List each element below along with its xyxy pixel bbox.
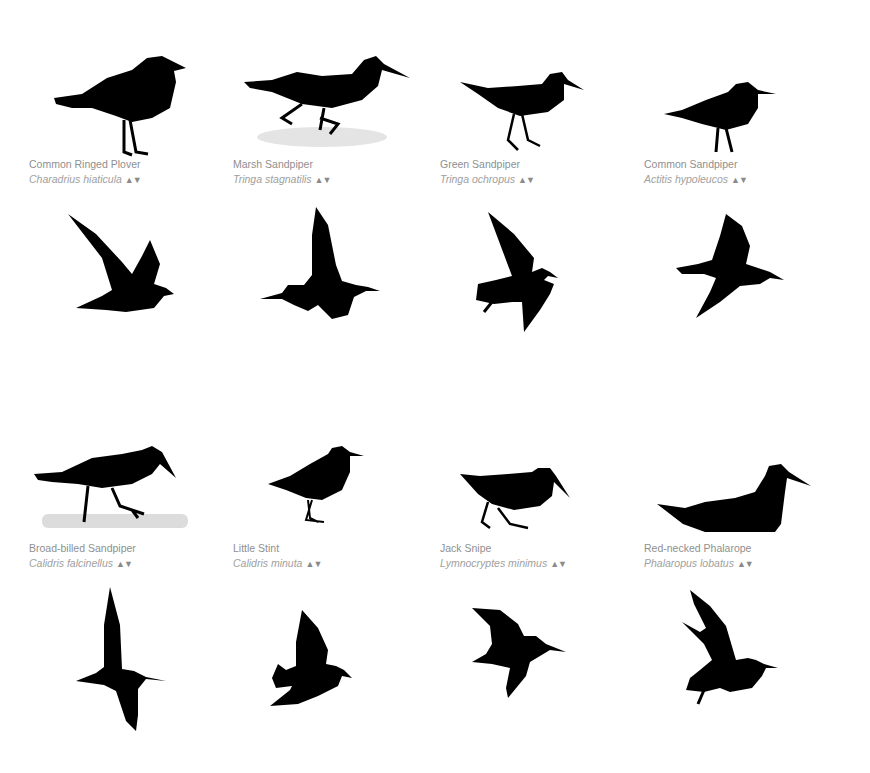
- scientific-name: Tringa stagnatilis▲▼: [233, 172, 330, 188]
- common-name: Jack Snipe: [440, 541, 566, 556]
- standing-silhouette-red-necked-phalarope: [655, 462, 815, 534]
- sort-down-icon[interactable]: ▼: [745, 559, 753, 569]
- flight-silhouette-red-necked-phalarope: [680, 588, 785, 706]
- sort-arrows: ▲▼: [731, 175, 747, 185]
- standing-silhouette-broad-billed-sandpiper: [32, 444, 192, 536]
- flight-silhouette-little-stint: [268, 608, 353, 710]
- sort-up-icon[interactable]: ▲: [518, 175, 526, 185]
- flight-silhouette-marsh-sandpiper: [258, 205, 383, 325]
- species-caption: Marsh Sandpiper Tringa stagnatilis▲▼: [233, 157, 330, 188]
- standing-silhouette-green-sandpiper: [458, 68, 588, 158]
- sort-down-icon[interactable]: ▼: [124, 559, 132, 569]
- species-caption: Common Ringed Plover Charadrius hiaticul…: [29, 157, 141, 188]
- species-caption: Red-necked Phalarope Phalaropus lobatus▲…: [644, 541, 753, 572]
- common-name: Common Sandpiper: [644, 157, 747, 172]
- sort-arrows: ▲▼: [125, 175, 141, 185]
- standing-silhouette-common-sandpiper: [662, 80, 782, 154]
- scientific-name: Tringa ochropus▲▼: [440, 172, 534, 188]
- sort-arrows: ▲▼: [550, 559, 566, 569]
- common-name: Red-necked Phalarope: [644, 541, 753, 556]
- common-name: Green Sandpiper: [440, 157, 534, 172]
- sort-up-icon[interactable]: ▲: [550, 559, 558, 569]
- common-name: Little Stint: [233, 541, 321, 556]
- sort-up-icon[interactable]: ▲: [125, 175, 133, 185]
- sort-down-icon[interactable]: ▼: [313, 559, 321, 569]
- standing-silhouette-marsh-sandpiper: [242, 52, 412, 152]
- scientific-name: Actitis hypoleucos▲▼: [644, 172, 747, 188]
- scientific-name: Calidris minuta▲▼: [233, 556, 321, 572]
- sort-down-icon[interactable]: ▼: [133, 175, 141, 185]
- species-caption: Common Sandpiper Actitis hypoleucos▲▼: [644, 157, 747, 188]
- common-name: Common Ringed Plover: [29, 157, 141, 172]
- flight-silhouette-jack-snipe: [470, 606, 570, 702]
- scientific-name: Calidris falcinellus▲▼: [29, 556, 136, 572]
- sort-arrows: ▲▼: [305, 559, 321, 569]
- sort-up-icon[interactable]: ▲: [737, 559, 745, 569]
- flight-silhouette-broad-billed-sandpiper: [74, 585, 174, 733]
- sort-arrows: ▲▼: [116, 559, 132, 569]
- standing-silhouette-jack-snipe: [458, 466, 573, 534]
- flight-silhouette-common-sandpiper: [674, 212, 789, 322]
- flight-silhouette-common-ringed-plover: [66, 212, 181, 317]
- sort-up-icon[interactable]: ▲: [116, 559, 124, 569]
- flight-silhouette-green-sandpiper: [474, 210, 564, 338]
- sort-down-icon[interactable]: ▼: [323, 175, 331, 185]
- scientific-name: Charadrius hiaticula▲▼: [29, 172, 141, 188]
- sort-down-icon[interactable]: ▼: [558, 559, 566, 569]
- standing-silhouette-common-ringed-plover: [52, 52, 192, 160]
- sort-arrows: ▲▼: [518, 175, 534, 185]
- common-name: Broad-billed Sandpiper: [29, 541, 136, 556]
- species-caption: Little Stint Calidris minuta▲▼: [233, 541, 321, 572]
- sort-arrows: ▲▼: [737, 559, 753, 569]
- scientific-name: Phalaropus lobatus▲▼: [644, 556, 753, 572]
- species-caption: Jack Snipe Lymnocryptes minimus▲▼: [440, 541, 566, 572]
- common-name: Marsh Sandpiper: [233, 157, 330, 172]
- species-caption: Green Sandpiper Tringa ochropus▲▼: [440, 157, 534, 188]
- sort-up-icon[interactable]: ▲: [315, 175, 323, 185]
- sort-up-icon[interactable]: ▲: [731, 175, 739, 185]
- standing-silhouette-little-stint: [266, 444, 366, 528]
- sort-down-icon[interactable]: ▼: [526, 175, 534, 185]
- scientific-name: Lymnocryptes minimus▲▼: [440, 556, 566, 572]
- sort-arrows: ▲▼: [315, 175, 331, 185]
- species-caption: Broad-billed Sandpiper Calidris falcinel…: [29, 541, 136, 572]
- sort-down-icon[interactable]: ▼: [739, 175, 747, 185]
